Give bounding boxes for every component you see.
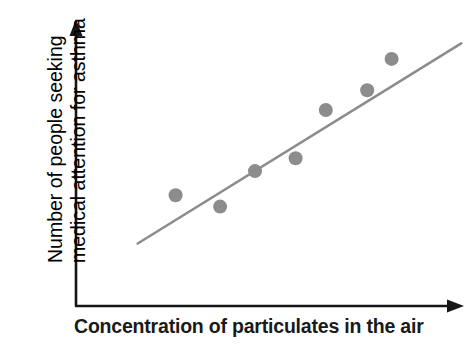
data-point-group [169, 52, 399, 214]
trend-line [138, 43, 462, 243]
data-point [319, 103, 333, 117]
scatter-plot-figure: Concentration of particulates in the air… [0, 0, 474, 359]
y-axis-label: Number of people seeking medical attenti… [44, 18, 90, 263]
data-point [385, 52, 399, 66]
y-axis-label-line-2: medical attention for asthma [67, 18, 90, 263]
data-point [169, 188, 183, 202]
data-point [213, 200, 227, 214]
data-point [248, 164, 262, 178]
y-axis-label-container: Number of people seeking medical attenti… [44, 0, 96, 263]
x-axis-arrow-icon [447, 300, 464, 313]
y-axis-label-line-1: Number of people seeking [44, 18, 67, 263]
x-axis-label: Concentration of particulates in the air [74, 316, 424, 338]
data-point [360, 83, 374, 97]
data-point [289, 151, 303, 165]
